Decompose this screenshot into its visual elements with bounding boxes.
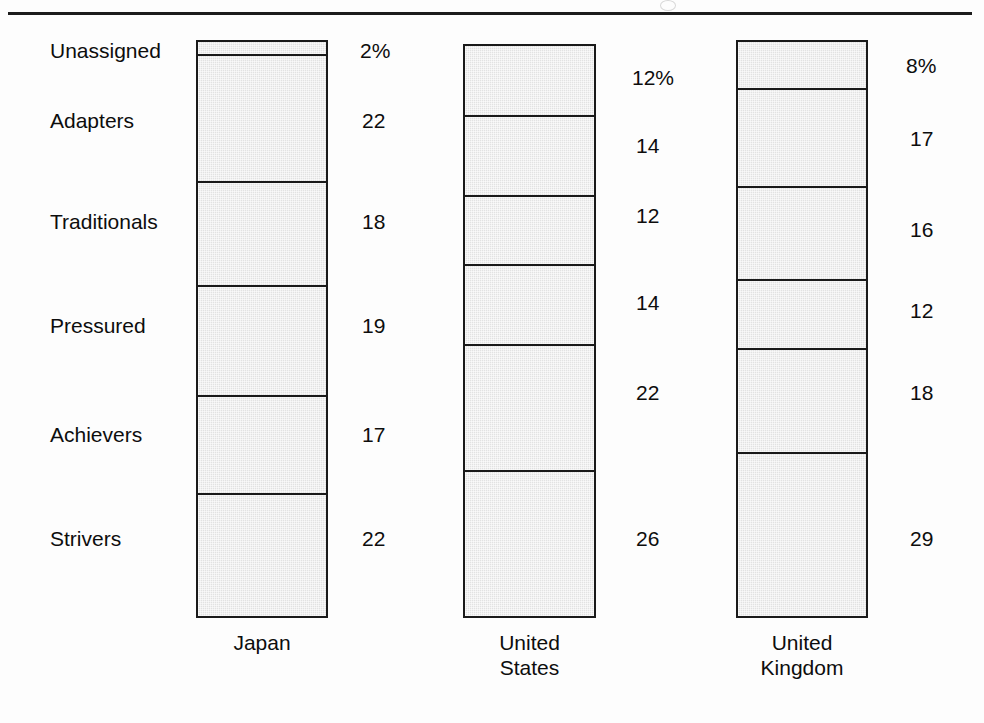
segment-uk-achievers bbox=[738, 348, 866, 452]
segment-uk-strivers bbox=[738, 452, 866, 620]
scan-artifact bbox=[660, 0, 676, 11]
segment-us-strivers bbox=[465, 470, 594, 620]
segment-us-achievers bbox=[465, 344, 594, 470]
category-label-traditionals: Traditionals bbox=[50, 211, 158, 232]
stacked-bar-united-states bbox=[463, 44, 596, 618]
segment-japan-traditionals bbox=[198, 181, 326, 285]
segment-japan-unassigned bbox=[198, 42, 326, 54]
category-label-pressured: Pressured bbox=[50, 315, 146, 336]
value-uk-strivers: 29 bbox=[910, 528, 933, 549]
value-us-traditionals: 12 bbox=[636, 205, 659, 226]
value-uk-achievers: 18 bbox=[910, 382, 933, 403]
value-japan-achievers: 17 bbox=[362, 424, 385, 445]
value-uk-unassigned: 8% bbox=[906, 55, 936, 76]
category-label-unassigned: Unassigned bbox=[50, 40, 161, 61]
category-label-adapters: Adapters bbox=[50, 110, 134, 131]
value-us-adapters: 14 bbox=[636, 135, 659, 156]
segment-us-pressured bbox=[465, 264, 594, 344]
country-caption-united-kingdom: United Kingdom bbox=[736, 630, 868, 680]
segment-uk-unassigned bbox=[738, 42, 866, 88]
value-us-unassigned: 12% bbox=[632, 67, 674, 88]
value-us-strivers: 26 bbox=[636, 528, 659, 549]
country-caption-japan: Japan bbox=[196, 630, 328, 655]
value-japan-strivers: 22 bbox=[362, 528, 385, 549]
segment-uk-adapters bbox=[738, 88, 866, 186]
segment-us-traditionals bbox=[465, 195, 594, 264]
segment-japan-pressured bbox=[198, 285, 326, 395]
value-us-pressured: 14 bbox=[636, 292, 659, 313]
segment-uk-pressured bbox=[738, 279, 866, 348]
value-uk-adapters: 17 bbox=[910, 128, 933, 149]
value-uk-pressured: 12 bbox=[910, 300, 933, 321]
segment-japan-adapters bbox=[198, 54, 326, 181]
segment-us-unassigned bbox=[465, 46, 594, 115]
figure-canvas: Unassigned Adapters Traditionals Pressur… bbox=[0, 0, 984, 723]
value-uk-traditionals: 16 bbox=[910, 219, 933, 240]
value-japan-traditionals: 18 bbox=[362, 211, 385, 232]
segment-us-adapters bbox=[465, 115, 594, 195]
stacked-bar-japan bbox=[196, 40, 328, 618]
top-horizontal-rule bbox=[8, 12, 972, 15]
segment-japan-strivers bbox=[198, 493, 326, 620]
value-japan-unassigned: 2% bbox=[360, 40, 390, 61]
value-us-achievers: 22 bbox=[636, 382, 659, 403]
value-japan-adapters: 22 bbox=[362, 110, 385, 131]
country-caption-united-states: United States bbox=[463, 630, 596, 680]
category-label-achievers: Achievers bbox=[50, 424, 142, 445]
segment-japan-achievers bbox=[198, 395, 326, 493]
segment-uk-traditionals bbox=[738, 186, 866, 279]
category-label-strivers: Strivers bbox=[50, 528, 121, 549]
stacked-bar-united-kingdom bbox=[736, 40, 868, 618]
value-japan-pressured: 19 bbox=[362, 315, 385, 336]
